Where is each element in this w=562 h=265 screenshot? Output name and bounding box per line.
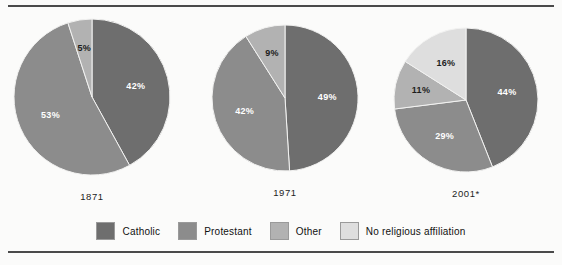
pie-2001-year-label: 2001* xyxy=(392,188,540,199)
pie-1971-label-protestant: 42% xyxy=(235,106,254,116)
legend-swatch-catholic xyxy=(96,222,115,240)
legend-label-catholic: Catholic xyxy=(122,226,160,237)
pie-1871-year-label: 1871 xyxy=(12,191,172,202)
legend-item-protestant[interactable]: Protestant xyxy=(178,222,252,240)
pie-1871: 42%53%5%1871 xyxy=(12,17,172,177)
legend-item-catholic[interactable]: Catholic xyxy=(96,222,160,240)
pie-2001-label-other: 11% xyxy=(412,85,430,95)
pie-1971: 49%42%9%1971 xyxy=(210,23,360,173)
pie-2001-label-no-religious-affiliation: 16% xyxy=(436,58,455,68)
bottom-rule xyxy=(8,251,554,253)
pie-2001-label-protestant: 29% xyxy=(435,131,454,141)
pie-1871-svg: 42%53%5% xyxy=(12,17,172,177)
top-rule xyxy=(8,5,554,7)
pie-2001: 44%29%11%16%2001* xyxy=(392,26,540,174)
legend-item-other[interactable]: Other xyxy=(270,222,322,240)
pie-chart-area: 42%53%5%187149%42%9%197144%29%11%16%2001… xyxy=(0,12,562,192)
figure-root: 42%53%5%187149%42%9%197144%29%11%16%2001… xyxy=(0,0,562,265)
pie-1971-svg: 49%42%9% xyxy=(210,23,360,173)
chart-legend: CatholicProtestantOtherNo religious affi… xyxy=(0,222,562,240)
pie-2001-label-catholic: 44% xyxy=(498,87,517,97)
pie-1971-label-catholic: 49% xyxy=(318,92,337,102)
legend-swatch-none xyxy=(340,222,359,240)
legend-label-other: Other xyxy=(296,226,322,237)
pie-1871-label-protestant: 53% xyxy=(41,110,60,120)
pie-2001-svg: 44%29%11%16% xyxy=(392,26,540,174)
legend-label-protestant: Protestant xyxy=(204,226,252,237)
legend-swatch-protestant xyxy=(178,222,197,240)
pie-1971-label-other: 9% xyxy=(265,48,279,58)
pie-1871-label-other: 5% xyxy=(77,43,91,53)
legend-label-no-religious-affiliation: No religious affiliation xyxy=(366,226,466,237)
legend-item-no-religious-affiliation[interactable]: No religious affiliation xyxy=(340,222,466,240)
pie-1871-label-catholic: 42% xyxy=(126,81,145,91)
pie-1971-year-label: 1971 xyxy=(210,187,360,198)
legend-swatch-other xyxy=(270,222,289,240)
